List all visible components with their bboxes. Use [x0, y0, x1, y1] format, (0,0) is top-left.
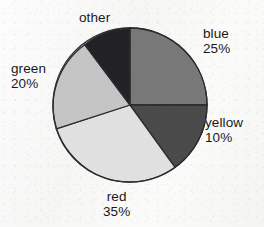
pie-label-red: red 35%	[103, 189, 130, 219]
pie-slice-blue	[130, 28, 207, 105]
pie-label-yellow-percent: 10%	[205, 130, 243, 145]
pie-label-yellow-name: yellow	[205, 115, 243, 130]
pie-label-green-name: green	[11, 61, 46, 76]
pie-label-other-name: other	[79, 10, 110, 25]
pie-chart-figure: blue 25% yellow 10% red 35% green 20% ot…	[0, 0, 264, 227]
pie-label-red-name: red	[103, 189, 130, 204]
pie-label-blue-name: blue	[203, 26, 230, 41]
pie-label-other: other	[79, 10, 110, 25]
pie-label-yellow: yellow 10%	[205, 115, 243, 145]
pie-label-blue-percent: 25%	[203, 41, 230, 56]
pie-label-green-percent: 20%	[11, 76, 46, 91]
pie-label-green: green 20%	[11, 61, 46, 91]
pie-label-blue: blue 25%	[203, 26, 230, 56]
pie-label-red-percent: 35%	[103, 204, 130, 219]
